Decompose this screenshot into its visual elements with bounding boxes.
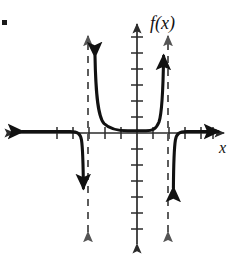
plot-canvas: [0, 0, 238, 254]
curve-left-branch: [22, 132, 83, 189]
curve-middle-branch: [95, 56, 164, 131]
x-axis-label: x: [219, 140, 226, 156]
function-graph-figure: f(x) x: [0, 0, 238, 254]
y-axis-label: f(x): [150, 14, 175, 32]
curve-right-branch: [173, 132, 218, 189]
